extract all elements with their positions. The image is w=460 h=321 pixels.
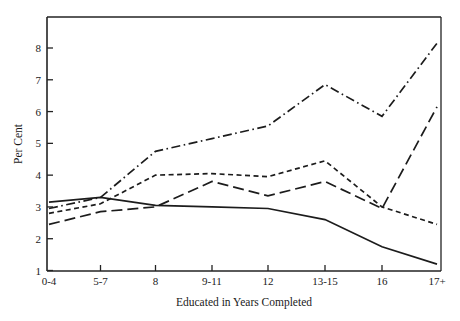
- y-tick-label: 3: [36, 201, 42, 213]
- x-tick-label: 17+: [428, 275, 445, 287]
- y-tick-label: 1: [36, 265, 42, 277]
- y-tick-label: 5: [36, 137, 42, 149]
- x-tick-label: 9-11: [202, 275, 222, 287]
- y-tick-label: 8: [36, 42, 42, 54]
- y-tick-label: 4: [36, 169, 42, 181]
- x-tick-label: 13-15: [312, 275, 338, 287]
- x-tick-label: 0-4: [42, 275, 57, 287]
- plot-frame: [47, 17, 441, 271]
- chart-container: 12345678 0-45-789-111213-151617+ Per Cen…: [0, 0, 460, 321]
- y-tick-label: 6: [36, 106, 42, 118]
- series-long-dash: [49, 107, 437, 225]
- x-tick-label: 5-7: [93, 275, 108, 287]
- x-tick-group: 0-45-789-111213-151617+: [42, 265, 446, 287]
- series-group: [49, 43, 437, 264]
- y-tick-label: 7: [36, 74, 42, 86]
- y-axis-label: Per Cent: [12, 123, 24, 164]
- x-tick-label: 12: [263, 275, 274, 287]
- series-dash-dot: [49, 43, 437, 208]
- x-tick-label: 16: [377, 275, 389, 287]
- line-chart: 12345678 0-45-789-111213-151617+ Per Cen…: [0, 0, 460, 321]
- x-tick-label: 8: [153, 275, 159, 287]
- x-axis-label: Educated in Years Completed: [176, 296, 312, 309]
- y-tick-group: 12345678: [36, 42, 54, 277]
- y-tick-label: 2: [36, 233, 42, 245]
